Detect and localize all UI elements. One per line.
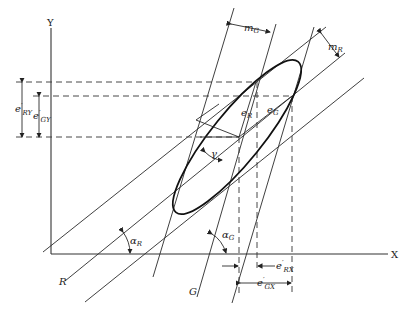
e-gy-label: e′GY [33,109,52,124]
alpha-g-label: αG [222,229,235,242]
g-line-family [153,8,314,303]
r-family-label: R [58,276,67,287]
y-axis-label: Y [46,17,54,28]
gamma-label: γ [211,148,217,159]
x-axis-label: X [391,249,399,260]
alpha-r-angle-marker [123,232,130,253]
horizontal-projections [16,82,292,137]
r-line-family [43,27,364,302]
error-ellipse-diagram: Y X R G αR αG mG mR eR eG γ e′RY e′GY e′… [0,0,408,310]
m-g-label: mG [244,22,259,35]
alpha-r-label: αR [130,235,143,248]
e-ry-label: e′RY [15,102,34,117]
e-gx-label: e′GX [257,276,276,291]
g-family-label: G [189,286,197,297]
